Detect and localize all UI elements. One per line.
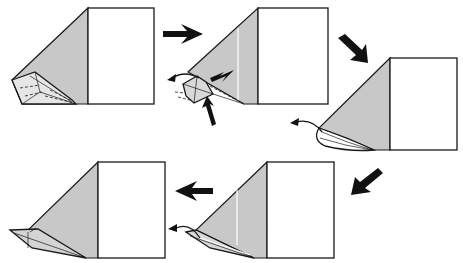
- arrow-down-left-icon: [351, 168, 383, 195]
- step-2-paper-rect: [258, 8, 328, 104]
- arrow-right-icon: [163, 24, 203, 44]
- curved-arrow-icon: [167, 74, 176, 82]
- step-5-paper-rect: [98, 162, 165, 258]
- push-arrow-icon: [202, 96, 216, 126]
- step-4-paper-rect: [267, 162, 334, 258]
- origami-diagram: [0, 0, 463, 263]
- step-1-figure: [12, 8, 154, 104]
- curved-arrow-icon: [168, 224, 177, 232]
- arrow-down-right-icon: [338, 34, 368, 63]
- step-1-paper-rect: [88, 8, 154, 104]
- step-2-figure: [167, 8, 328, 126]
- step-3-paper-rect: [390, 58, 457, 150]
- curved-arrow-icon: [290, 118, 299, 126]
- step-5-figure: [10, 162, 165, 258]
- step-4-figure: [168, 162, 334, 258]
- arrow-left-icon: [175, 181, 213, 201]
